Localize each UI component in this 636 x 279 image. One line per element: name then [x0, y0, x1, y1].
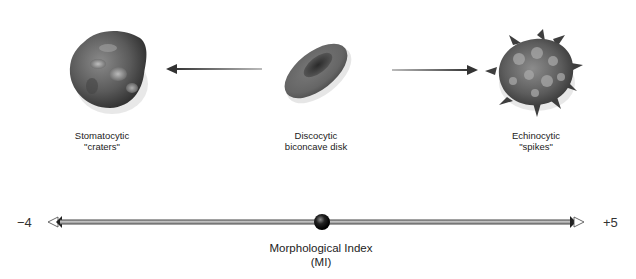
scale-max-label: +5 [603, 215, 618, 230]
echinocyte-cell-image [485, 25, 585, 120]
axis-title-line1: Morphological Index [246, 241, 396, 255]
echinocytic-descriptor: "spikes" [488, 141, 584, 152]
discocytic-label: Discocytic biconcave disk [266, 130, 366, 152]
discocytic-name: Discocytic [266, 130, 366, 141]
axis-title-line2: (MI) [246, 255, 396, 269]
stomatocyte-cell-image [62, 22, 152, 117]
axis-title: Morphological Index (MI) [246, 241, 396, 269]
echinocytic-name: Echinocytic [488, 130, 584, 141]
stomatocytic-descriptor: "craters" [54, 141, 150, 152]
echinocytic-label: Echinocytic "spikes" [488, 130, 584, 152]
discocytic-descriptor: biconcave disk [266, 141, 366, 152]
arrow-left-to-stomatocytic [166, 63, 262, 75]
scale-min-label: −4 [17, 215, 32, 230]
stomatocytic-label: Stomatocytic "craters" [54, 130, 150, 152]
arrow-right-to-echinocytic [392, 64, 478, 76]
stomatocytic-name: Stomatocytic [54, 130, 150, 141]
discocyte-cell-image [276, 33, 356, 108]
scale-marker-ball [313, 213, 331, 231]
